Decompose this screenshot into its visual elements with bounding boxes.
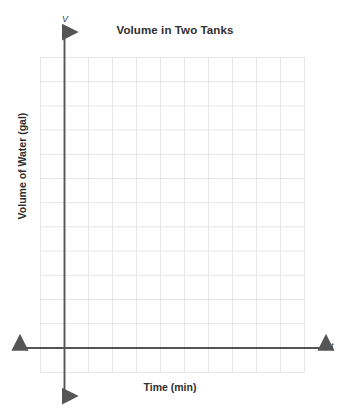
grid-lines — [41, 58, 305, 373]
x-axis-variable-symbol: t — [331, 341, 334, 351]
graph-figure: Volume in Two Tanks Volume of Water (gal… — [0, 0, 346, 414]
chart-title: Volume in Two Tanks — [95, 24, 255, 36]
y-axis-label: Volume of Water (gal) — [16, 96, 28, 236]
y-axis-variable-symbol: V — [62, 14, 68, 24]
x-axis-label: Time (min) — [110, 381, 230, 393]
coordinate-plane — [0, 0, 346, 414]
